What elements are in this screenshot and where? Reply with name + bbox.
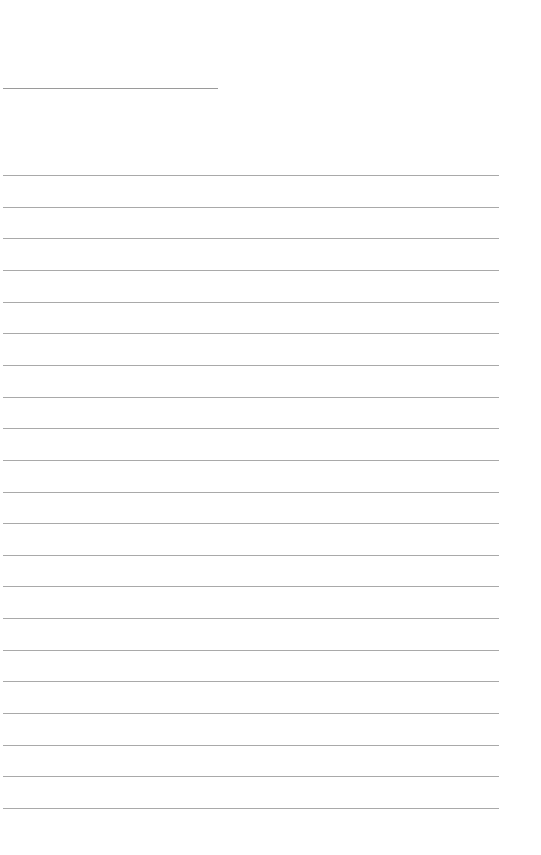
ruled-line: [3, 302, 499, 303]
ruled-line: [3, 776, 499, 777]
ruled-line: [3, 460, 499, 461]
ruled-line: [3, 586, 499, 587]
ruled-line: [3, 555, 499, 556]
header-line: [3, 88, 218, 89]
lined-page: [0, 0, 541, 855]
ruled-line: [3, 650, 499, 651]
ruled-line: [3, 618, 499, 619]
ruled-line: [3, 333, 499, 334]
ruled-line: [3, 523, 499, 524]
ruled-line: [3, 175, 499, 176]
ruled-line: [3, 270, 499, 271]
ruled-line: [3, 428, 499, 429]
ruled-line: [3, 492, 499, 493]
ruled-line: [3, 238, 499, 239]
ruled-line: [3, 745, 499, 746]
ruled-line: [3, 713, 499, 714]
ruled-line: [3, 397, 499, 398]
ruled-line: [3, 365, 499, 366]
ruled-line: [3, 207, 499, 208]
ruled-line: [3, 808, 499, 809]
ruled-line: [3, 681, 499, 682]
